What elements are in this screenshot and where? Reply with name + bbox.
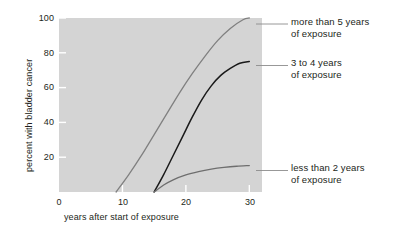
x-tick-label-10: 10	[110, 197, 136, 207]
x-tick-label-30: 30	[237, 197, 263, 207]
annotation-line-2: of exposure	[291, 28, 369, 40]
x-tick-label-20: 20	[173, 197, 199, 207]
x-axis-label: years after start of exposure	[64, 212, 179, 222]
annotation-line-1: more than 5 years	[291, 16, 369, 28]
x-tick-label-0: 0	[46, 197, 72, 207]
annotation-3-to-4-years: 3 to 4 years of exposure	[291, 57, 342, 80]
annotation-line-1: 3 to 4 years	[291, 57, 342, 69]
annotation-line-2: of exposure	[291, 69, 342, 81]
bladder-cancer-exposure-chart: 100 80 60 40 20 0 10 20 30 percent with …	[0, 0, 395, 238]
annotation-less-than-2-years: less than 2 years of exposure	[291, 162, 365, 185]
annotation-line-1: less than 2 years	[291, 162, 365, 174]
y-tick-label-100: 100	[28, 13, 54, 23]
annotation-line-2: of exposure	[291, 174, 365, 186]
y-tick-label-80: 80	[28, 48, 54, 58]
plot-background	[59, 18, 262, 192]
annotation-more-than-5-years: more than 5 years of exposure	[291, 16, 369, 39]
y-axis-label: percent with bladder cancer	[24, 59, 34, 172]
